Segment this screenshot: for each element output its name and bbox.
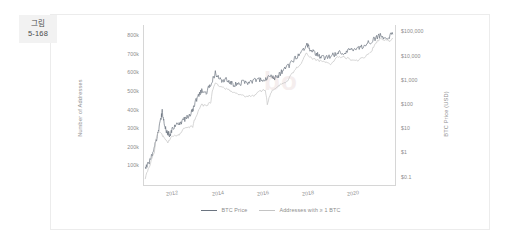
legend-label: BTC Price xyxy=(221,207,247,213)
legend-swatch-icon xyxy=(259,210,275,211)
chart-legend: BTC PriceAddresses with ≥ 1 BTC xyxy=(51,207,491,213)
series-line-addresses xyxy=(145,32,392,168)
figure-tag-line2: 5-168 xyxy=(19,29,57,39)
legend-label: Addresses with ≥ 1 BTC xyxy=(279,207,340,213)
legend-item[interactable]: BTC Price xyxy=(201,207,247,213)
figure-tag-line1: 그림 xyxy=(19,19,57,29)
figure-number-tag: 그림 5-168 xyxy=(19,15,57,43)
figure-card: bo Number of Addresses BTC Price (USD) 1… xyxy=(50,14,490,230)
chart-plot-lines xyxy=(51,15,491,231)
legend-swatch-icon xyxy=(201,210,217,211)
series-line-btc-price xyxy=(145,38,392,179)
chart-container: bo Number of Addresses BTC Price (USD) 1… xyxy=(51,15,491,231)
page-root: 그림 5-168 bo Number of Addresses BTC Pric… xyxy=(0,0,515,244)
legend-item[interactable]: Addresses with ≥ 1 BTC xyxy=(259,207,340,213)
